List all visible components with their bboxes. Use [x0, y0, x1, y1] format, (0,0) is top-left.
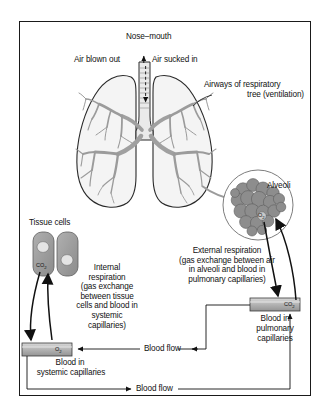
blood-systemic-line1: Blood in: [22, 358, 118, 368]
co2-tissue-label: CO2: [36, 262, 46, 270]
external-respiration-label: External respiration (gas exchange betwe…: [158, 246, 296, 284]
airways-label-line1: Airways of respiratory: [204, 80, 304, 90]
o2-alveoli-label: O2: [258, 212, 265, 220]
tissue-cells-label: Tissue cells: [29, 218, 70, 228]
blood-flow-upper-label: Blood flow: [144, 344, 181, 354]
blood-pulmonary-line3: capillaries: [246, 334, 304, 344]
alveoli-label: Alveoli: [267, 181, 290, 191]
blood-pulmonary-line2: pulmonary: [246, 324, 304, 334]
air-sucked-in-label: Air sucked in: [152, 55, 198, 65]
respiration-diagram-page: Nose–mouth Air blown out Air sucked in A…: [0, 0, 326, 416]
blood-systemic-line2: systemic capillaries: [16, 368, 126, 378]
blood-pulmonary-line1: Blood in: [246, 314, 304, 324]
airways-label-line2: tree (ventilation): [204, 90, 304, 100]
air-blown-out-label: Air blown out: [74, 55, 120, 65]
o2-systemic-label: O2: [55, 346, 62, 354]
page-title: Nose–mouth: [126, 32, 171, 42]
internal-respiration-label: Internal respiration (gas exchange betwe…: [66, 263, 148, 330]
co2-pulmonary-label: CO2: [284, 301, 294, 309]
blood-flow-lower-label: Blood flow: [136, 384, 173, 394]
